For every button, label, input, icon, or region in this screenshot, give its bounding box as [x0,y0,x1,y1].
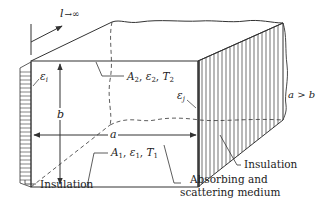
aspect-condition: a > b [288,89,315,100]
svg-text:A2, ε2, T2: A2, ε2, T2 [126,70,174,84]
left-emissivity-label: εi [33,70,48,86]
svg-text:εj: εj [177,89,186,103]
length-indicator: l→∞ [31,7,80,55]
left-insulation-callout: Insulation [25,178,94,190]
right-insulation-label: Insulation [244,158,298,170]
dimension-a: a [34,128,196,141]
medium-label-line2: scattering medium [180,186,280,198]
top-face [31,20,283,61]
right-emissivity-label: εj [177,89,196,108]
enclosure-diagram: l→∞ b a A2, ε2, T2 A1, ε1, T1 εi εj a > … [0,0,321,208]
right-insulation-callout: Insulation [220,135,298,170]
medium-label-line1: Absorbing and [189,173,268,185]
b-label: b [57,108,64,121]
dimension-b: b [55,64,65,184]
svg-text:A1, ε1, T1: A1, ε1, T1 [110,146,158,160]
top-surface-label: A2, ε2, T2 [96,62,174,84]
svg-text:εi: εi [40,70,48,84]
a-label: a [110,128,117,141]
length-label: l→∞ [60,7,80,20]
left-insulation-hatch [20,62,31,187]
left-insulation-label: Insulation [40,178,94,190]
bottom-surface-label: A1, ε1, T1 [87,146,158,187]
diagram-svg: l→∞ b a A2, ε2, T2 A1, ε1, T1 εi εj a > … [0,0,321,208]
